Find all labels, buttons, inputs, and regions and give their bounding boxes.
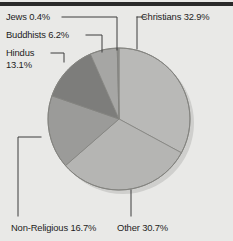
pie-chart-figure: Jews 0.4% Buddhists 6.2% Hindus 13.1% Ch…: [0, 0, 233, 241]
slice-label-non-religious: Non-Religious 16.7%: [11, 222, 96, 234]
slice-label-jews: Jews 0.4%: [6, 11, 50, 23]
leader-non-religious: [18, 137, 41, 216]
pie-slices: [48, 48, 190, 190]
slice-label-buddhists: Buddhists 6.2%: [6, 29, 69, 41]
slice-label-christians: Christians 32.9%: [141, 11, 209, 23]
leader-hindus: [51, 53, 64, 62]
slice-label-other: Other 30.7%: [117, 222, 168, 234]
slice-label-hindus: Hindus 13.1%: [6, 47, 34, 71]
leader-buddhists: [86, 35, 102, 52]
leader-jews: [62, 17, 117, 50]
